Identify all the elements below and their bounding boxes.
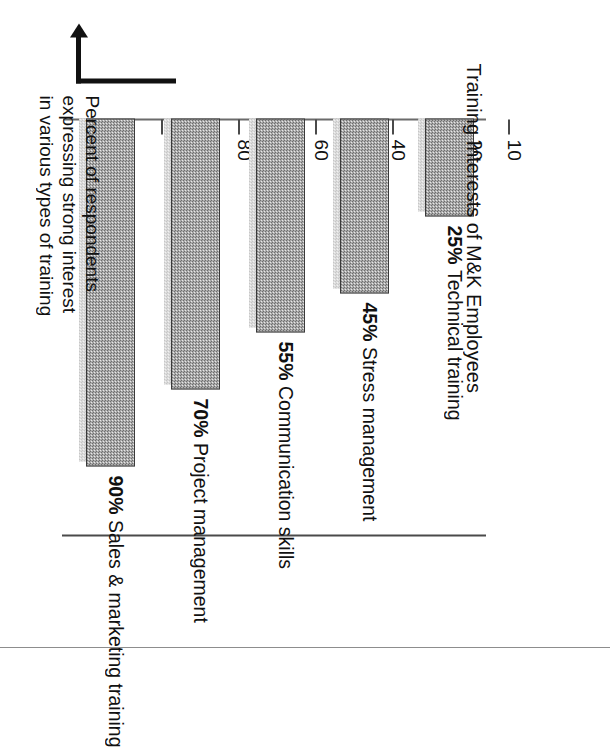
bar-value-label: 55% [275, 341, 297, 385]
value-axis-tick [315, 119, 317, 134]
value-axis-caption: Percent of respondents expressing strong… [34, 95, 104, 316]
bar-shadow [164, 118, 171, 385]
bar[interactable] [171, 118, 220, 390]
chart-title: Training Interests of M&K Employees [462, 63, 485, 392]
bar-category-label: Sales & marketing training [105, 520, 127, 748]
value-axis-tick [238, 119, 240, 134]
page-divider-rule [0, 647, 610, 648]
bar-shadow [333, 118, 340, 288]
bar-value-label: 45% [359, 302, 381, 346]
caption-line-1: Percent of respondents [81, 95, 104, 316]
bar-category-label: Stress management [359, 347, 381, 522]
bar-category-label: Project management [190, 443, 212, 623]
bar-shadow [249, 118, 256, 327]
bar-value-label: 70% [190, 399, 212, 443]
value-axis-tick-label: 10 [503, 139, 525, 161]
bar-category-label: Communication skills [275, 385, 297, 568]
value-axis-tick [392, 119, 394, 134]
value-axis-tick [161, 119, 163, 134]
value-axis-tick-label: 40 [387, 139, 409, 161]
axis-caption-arrow-icon [76, 21, 176, 83]
caption-line-2: expressing strong interest [58, 95, 81, 316]
value-axis-tick [508, 119, 510, 134]
bar-label: 45% Stress management [358, 302, 381, 521]
bar[interactable] [340, 118, 389, 293]
bar-label: 55% Communication skills [274, 341, 297, 569]
caption-line-3: in various types of training [34, 95, 57, 316]
bar-value-label: 90% [105, 476, 127, 520]
value-axis-tick-label: 60 [310, 139, 332, 161]
bar[interactable] [256, 118, 305, 332]
bar-label: 70% Project management [189, 399, 212, 623]
bar-shadow [418, 118, 425, 211]
bar-label: 90% Sales & marketing training [104, 476, 127, 748]
